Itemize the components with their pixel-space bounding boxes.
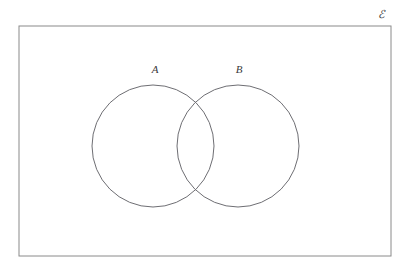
set-b-circle [177, 85, 299, 207]
venn-diagram-canvas: A B ℰ [0, 0, 411, 271]
universal-set-label: ℰ [378, 8, 386, 20]
universal-set-rectangle [19, 26, 391, 256]
set-a-circle [92, 85, 214, 207]
venn-diagram-figure: A B ℰ [0, 0, 411, 271]
set-a-label: A [151, 63, 159, 75]
set-b-label: B [236, 63, 243, 75]
